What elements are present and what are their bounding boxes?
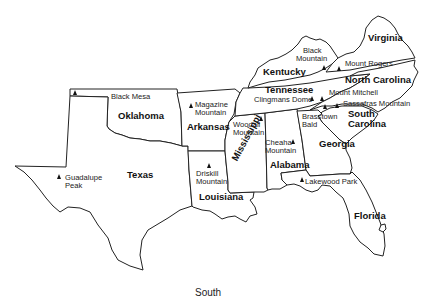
map-caption: South bbox=[195, 287, 221, 298]
peak-label-mount-rogers: Mount Rogers bbox=[345, 60, 393, 68]
peak-label-guadalupe-line2: Peak bbox=[65, 182, 102, 190]
peak-label-lakewood-park: Lakewood Park bbox=[305, 178, 357, 186]
peak-marker-black-mountain[interactable] bbox=[322, 65, 326, 70]
state-label-north-carolina: North Carolina bbox=[345, 75, 411, 85]
peak-label-magazine-line2: Mountain bbox=[195, 109, 228, 117]
peak-marker-guadalupe-peak[interactable] bbox=[57, 174, 61, 179]
south-region-map bbox=[0, 0, 429, 306]
state-label-south-carolina-line2: Carolina bbox=[348, 119, 386, 129]
peak-label-driskill-line2: Mountain bbox=[196, 178, 227, 186]
peak-label-woodall-line2: Mountain bbox=[233, 129, 264, 137]
peak-marker-brasstown-bald[interactable] bbox=[323, 104, 327, 109]
peak-label-black-mountain-line2: Mountain bbox=[296, 55, 327, 63]
peak-label-brasstown-line2: Bald bbox=[302, 121, 337, 129]
peak-marker-black-mesa[interactable] bbox=[73, 90, 77, 95]
peak-marker-lakewood-park[interactable] bbox=[300, 177, 304, 182]
state-label-kentucky: Kentucky bbox=[263, 67, 306, 77]
peak-label-clingmans-dome: Clingmans Dome bbox=[254, 96, 312, 104]
state-label-louisiana: Louisiana bbox=[199, 192, 243, 202]
peak-label-magazine-mountain: Magazine Mountain bbox=[195, 101, 228, 117]
state-label-virginia: Virginia bbox=[368, 33, 403, 43]
state-label-south-carolina: South Carolina bbox=[348, 109, 386, 129]
peak-label-cheaha-mountain: Cheaha Mountain bbox=[265, 139, 296, 155]
state-label-georgia: Georgia bbox=[319, 139, 355, 149]
state-label-florida: Florida bbox=[354, 211, 386, 221]
peak-label-cheaha-line2: Mountain bbox=[265, 147, 296, 155]
state-label-alabama: Alabama bbox=[270, 160, 310, 170]
peak-label-guadalupe-peak: Guadalupe Peak bbox=[65, 174, 102, 190]
peak-label-woodall-mountain: Woodall Mountain bbox=[233, 121, 264, 137]
peak-marker-driskill-mountain[interactable] bbox=[207, 163, 211, 168]
peak-label-driskill-mountain: Driskill Mountain bbox=[196, 170, 227, 186]
peak-marker-magazine-mountain[interactable] bbox=[189, 103, 193, 108]
peak-marker-sassafras-mountain[interactable] bbox=[335, 103, 339, 108]
peak-label-black-mountain: Black Mountain bbox=[296, 47, 327, 63]
peak-label-sassafras-mountain: Sassafras Mountain bbox=[343, 100, 410, 108]
peak-marker-mount-rogers[interactable] bbox=[337, 66, 341, 71]
state-label-texas: Texas bbox=[127, 170, 153, 180]
state-label-arkansas: Arkansas bbox=[187, 122, 230, 132]
state-label-tennessee: Tennessee bbox=[265, 85, 313, 95]
peak-label-black-mesa: Black Mesa bbox=[111, 93, 150, 101]
peak-label-mount-mitchell: Mount Mitchell bbox=[329, 89, 378, 97]
state-label-oklahoma: Oklahoma bbox=[118, 111, 164, 121]
peak-label-brasstown-bald: Brasstown Bald bbox=[302, 113, 337, 129]
peak-marker-mount-mitchell[interactable] bbox=[320, 96, 324, 101]
